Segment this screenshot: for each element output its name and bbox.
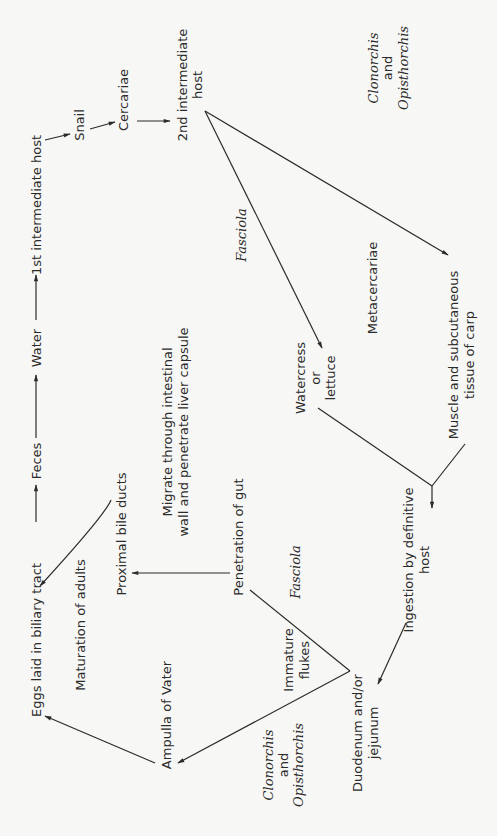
node-cercariae: Cercariae [116,69,131,131]
label-metacercariae: Metacercariae [365,242,380,335]
label-maturation: Maturation of adults [73,559,88,691]
arrow-ampulla-to-eggs [45,716,155,763]
node-feces: Feces [29,442,44,479]
label-clonorchis-bottom-line3: Opisthorchis [291,723,306,807]
label-immature-line2: flukes [297,641,312,679]
label-migrate-line1: Migrate through intestinal [160,347,175,516]
label-clonorchis-bottom-line2: and [276,753,291,777]
node-penetration-of-gut: Penetration of gut [231,478,246,595]
node-ampulla-of-vater: Ampulla of Vater [159,660,174,769]
label-fasciola-mid: Fasciola [288,545,303,600]
node-water: Water [29,328,44,367]
node-snail: Snail [72,109,87,141]
node-muscle-line2: tissue of carp [462,311,477,399]
line-watercress-to-merge [318,408,432,486]
label-fasciola-top: Fasciola [234,208,249,263]
node-ingestion-line1: Ingestion by definitive [401,488,416,633]
label-migrate-line2: wall and penetrate liver capsule [176,327,191,536]
node-muscle-line1: Muscle and subcutaneous [446,270,461,439]
line-muscle-to-merge [432,444,465,486]
arrow-first-host-to-snail [45,134,70,140]
node-duodenum-line1: Duodenum and/or [350,673,365,792]
node-second-host-line1: 2nd intermediate [175,29,190,142]
node-duodenum-line2: jejunum [366,707,381,761]
arrow-second-host-to-watercress [205,111,322,348]
arrow-snail-to-cercariae [90,122,115,129]
node-watercress-line1: Watercress [293,342,308,414]
label-clonorchis-top-line1: Clonorchis [366,32,381,103]
node-second-host-line2: host [190,71,205,99]
node-watercress-line2: or [308,371,323,385]
label-clonorchis-bottom-line1: Clonorchis [261,729,276,800]
node-watercress-line3: lettuce [323,355,338,400]
label-clonorchis-top-line3: Opisthorchis [396,26,411,110]
node-eggs: Eggs laid in biliary tract [29,563,44,717]
life-cycle-diagram: Eggs laid in biliary tract Feces Water 1… [0,0,497,836]
label-immature-line1: Immature [281,628,296,692]
node-proximal-bile-ducts: Proximal bile ducts [114,472,129,595]
node-ingestion-line2: host [417,546,432,574]
label-clonorchis-top-line2: and [380,56,395,80]
node-first-host: 1st intermediate host [29,135,44,275]
